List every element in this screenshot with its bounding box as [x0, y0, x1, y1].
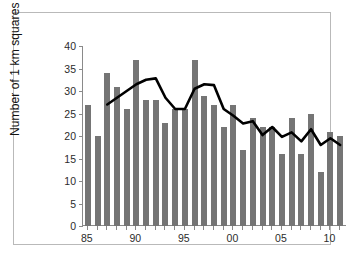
x-tick-mark	[126, 226, 127, 230]
x-tick-mark	[116, 226, 117, 230]
x-tick-mark	[223, 226, 224, 230]
x-tick-layer: 859095000510	[82, 226, 346, 250]
chart-figure: Number of 1 km squares 0510152025303540 …	[0, 0, 349, 262]
x-tick-label: 95	[178, 233, 190, 244]
plot-area: 0510152025303540	[83, 46, 345, 226]
x-tick-mark	[87, 226, 88, 230]
x-tick-label: 10	[324, 233, 336, 244]
x-tick-mark	[97, 226, 98, 230]
x-tick-mark	[242, 226, 243, 230]
x-tick-mark	[329, 226, 330, 230]
x-tick-mark	[213, 226, 214, 230]
x-tick-mark	[232, 226, 233, 230]
x-tick-mark	[184, 226, 185, 230]
y-tick-label: 5	[70, 198, 76, 209]
x-tick-mark	[310, 226, 311, 230]
y-tick-label: 40	[64, 41, 76, 52]
y-tick-label: 35	[64, 63, 76, 74]
x-tick-mark	[174, 226, 175, 230]
x-tick-mark	[339, 226, 340, 230]
x-tick-mark	[252, 226, 253, 230]
x-tick-label: 90	[130, 233, 142, 244]
x-tick-mark	[281, 226, 282, 230]
x-tick-mark	[203, 226, 204, 230]
y-axis-label: Number of 1 km squares	[8, 2, 22, 136]
trend-line-series	[83, 46, 345, 226]
x-tick-mark	[135, 226, 136, 230]
x-tick-mark	[194, 226, 195, 230]
x-tick-mark	[106, 226, 107, 230]
y-tick-label: 30	[64, 86, 76, 97]
x-tick-label: 05	[275, 233, 287, 244]
y-tick-label: 25	[64, 108, 76, 119]
x-tick-mark	[271, 226, 272, 230]
y-tick-label: 0	[70, 221, 76, 232]
x-tick-mark	[164, 226, 165, 230]
y-tick-label: 15	[64, 153, 76, 164]
x-tick-mark	[291, 226, 292, 230]
x-tick-label: 85	[81, 233, 93, 244]
x-tick-mark	[145, 226, 146, 230]
x-tick-label: 00	[227, 233, 239, 244]
y-tick-label: 10	[64, 176, 76, 187]
x-tick-mark	[262, 226, 263, 230]
trend-line-path	[107, 78, 340, 145]
x-tick-mark	[155, 226, 156, 230]
x-tick-mark	[300, 226, 301, 230]
y-tick-label: 20	[64, 131, 76, 142]
x-tick-mark	[320, 226, 321, 230]
figure-frame: Number of 1 km squares 0510152025303540 …	[13, 12, 331, 245]
